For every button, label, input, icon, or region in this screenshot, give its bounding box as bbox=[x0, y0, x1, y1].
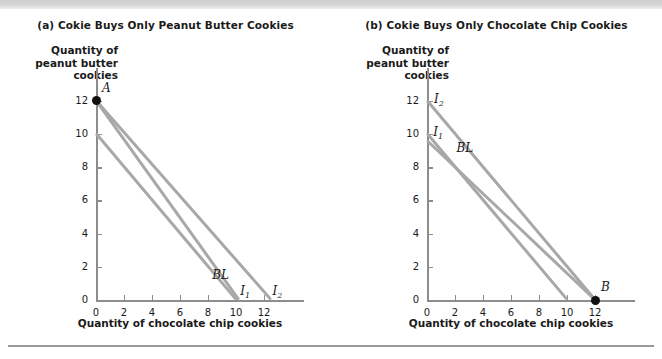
y-tick-mark-6 bbox=[97, 200, 102, 201]
y-tick-mark-2 bbox=[97, 267, 102, 268]
y-tick-label-0: 0 bbox=[66, 294, 88, 305]
y-tick-label-10: 10 bbox=[397, 128, 419, 139]
y-axis-label-line-1: Quantity of bbox=[331, 44, 449, 57]
bottom-divider bbox=[8, 345, 654, 347]
data-point-b bbox=[591, 296, 600, 305]
curve-bl bbox=[426, 139, 596, 301]
x-tick-mark-8 bbox=[208, 295, 209, 300]
panel-a-title: (a) Cokie Buys Only Peanut Butter Cookie… bbox=[0, 19, 331, 31]
y-tick-mark-6 bbox=[428, 200, 433, 201]
curve-label-i2: I2 bbox=[434, 92, 444, 108]
curve-label-i2: I2 bbox=[272, 284, 282, 300]
x-tick-mark-4 bbox=[483, 295, 484, 300]
curve-label-i1: I1 bbox=[433, 125, 443, 141]
y-tick-label-2: 2 bbox=[66, 261, 88, 272]
x-tick-mark-8 bbox=[539, 295, 540, 300]
point-label-a: A bbox=[102, 81, 111, 95]
panel-b-x-axis-label: Quantity of chocolate chip cookies bbox=[371, 317, 651, 329]
curve-i2 bbox=[426, 100, 596, 301]
y-tick-mark-4 bbox=[97, 234, 102, 235]
y-tick-mark-2 bbox=[428, 267, 433, 268]
y-tick-label-4: 4 bbox=[397, 228, 419, 239]
x-tick-mark-2 bbox=[124, 295, 125, 300]
y-axis-label-line-3: cookies bbox=[0, 69, 118, 82]
panel-a-y-axis-label: Quantity of peanut butter cookies bbox=[0, 44, 118, 82]
y-tick-label-12: 12 bbox=[397, 95, 419, 106]
panel-b-y-axis-label: Quantity of peanut butter cookies bbox=[331, 44, 449, 82]
point-label-b: B bbox=[601, 280, 610, 294]
x-axis-line bbox=[427, 300, 635, 302]
y-axis-label-line-1: Quantity of bbox=[0, 44, 118, 57]
data-point-a bbox=[92, 96, 101, 105]
y-axis-label-line-2: peanut butter bbox=[0, 57, 118, 70]
x-tick-mark-4 bbox=[152, 295, 153, 300]
curve-label-i1: I1 bbox=[240, 284, 250, 300]
curve-label-bl: BL bbox=[456, 141, 473, 155]
y-tick-mark-4 bbox=[428, 234, 433, 235]
y-tick-label-4: 4 bbox=[66, 228, 88, 239]
y-tick-label-2: 2 bbox=[397, 261, 419, 272]
panel-a-x-axis-label: Quantity of chocolate chip cookies bbox=[40, 317, 320, 329]
panel-b: (b) Cokie Buys Only Chocolate Chip Cooki… bbox=[331, 0, 662, 345]
y-axis-label-line-3: cookies bbox=[331, 69, 449, 82]
y-tick-mark-8 bbox=[97, 167, 102, 168]
x-tick-mark-6 bbox=[511, 295, 512, 300]
x-tick-mark-6 bbox=[180, 295, 181, 300]
y-tick-label-6: 6 bbox=[397, 194, 419, 205]
y-tick-label-8: 8 bbox=[397, 161, 419, 172]
y-tick-mark-8 bbox=[428, 167, 433, 168]
panel-b-title: (b) Cokie Buys Only Chocolate Chip Cooki… bbox=[331, 19, 662, 31]
curve-i2 bbox=[95, 100, 272, 301]
y-axis-label-line-2: peanut butter bbox=[331, 57, 449, 70]
y-tick-label-8: 8 bbox=[66, 161, 88, 172]
x-tick-mark-2 bbox=[455, 295, 456, 300]
panel-a: (a) Cokie Buys Only Peanut Butter Cookie… bbox=[0, 0, 331, 345]
y-tick-label-12: 12 bbox=[66, 95, 88, 106]
y-tick-label-0: 0 bbox=[397, 294, 419, 305]
y-tick-label-6: 6 bbox=[66, 194, 88, 205]
y-tick-label-10: 10 bbox=[66, 128, 88, 139]
curve-label-bl: BL bbox=[212, 268, 229, 282]
